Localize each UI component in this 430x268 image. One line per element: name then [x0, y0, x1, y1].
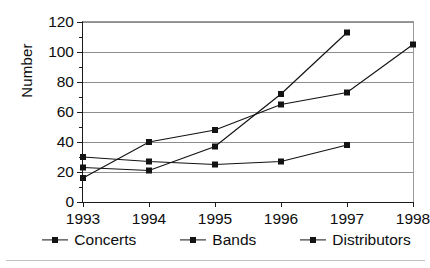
legend-marker-icon [180, 235, 206, 245]
x-axis-tick [347, 202, 348, 207]
y-axis-title: Number [18, 19, 35, 123]
data-point-bands [212, 127, 218, 133]
legend-item-distributors: Distributors [300, 231, 410, 249]
data-point-distributors [146, 159, 152, 165]
chart-legend: ConcertsBandsDistributors [0, 228, 429, 252]
data-point-bands [410, 42, 416, 48]
legend-label: Concerts [74, 231, 136, 249]
x-axis-tick-label: 1993 [66, 210, 100, 228]
data-point-bands [80, 175, 86, 181]
data-point-concerts [212, 144, 218, 150]
x-axis-tick [281, 202, 282, 207]
legend-marker-icon [300, 235, 326, 245]
legend-label: Distributors [332, 231, 410, 249]
x-axis-tick-label: 1998 [396, 210, 430, 228]
data-point-distributors [80, 154, 86, 160]
data-point-concerts [80, 165, 86, 171]
data-point-concerts [278, 91, 284, 97]
data-point-bands [278, 102, 284, 108]
y-axis-tick-label: 0 [34, 193, 74, 211]
x-axis-tick [149, 202, 150, 207]
data-point-concerts [344, 30, 350, 36]
y-axis-tick-label: 20 [34, 163, 74, 181]
x-axis-tick [215, 202, 216, 207]
data-point-concerts [146, 168, 152, 174]
series-line-concerts [83, 33, 347, 171]
bottom-divider [6, 260, 425, 261]
x-axis-tick [413, 202, 414, 207]
series-layer [83, 22, 413, 202]
plot-area: 020406080100120 199319941995199619971998 [82, 21, 414, 203]
x-axis-tick-label: 1994 [132, 210, 166, 228]
y-axis-tick-label: 80 [34, 73, 74, 91]
legend-label: Bands [212, 231, 256, 249]
data-point-distributors [278, 159, 284, 165]
data-point-distributors [344, 142, 350, 148]
y-axis-tick-label: 60 [34, 103, 74, 121]
data-point-bands [146, 139, 152, 145]
legend-marker-icon [42, 235, 68, 245]
series-line-bands [83, 45, 413, 179]
x-axis-tick-label: 1997 [330, 210, 364, 228]
data-point-bands [344, 90, 350, 96]
y-axis-tick-label: 120 [34, 13, 74, 31]
x-axis-tick-label: 1995 [198, 210, 232, 228]
y-axis-tick-label: 100 [34, 43, 74, 61]
legend-item-bands: Bands [180, 231, 256, 249]
y-axis-tick-label: 40 [34, 133, 74, 151]
x-axis-tick [83, 202, 84, 207]
x-axis-tick-label: 1996 [264, 210, 298, 228]
data-point-distributors [212, 162, 218, 168]
legend-item-concerts: Concerts [42, 231, 136, 249]
